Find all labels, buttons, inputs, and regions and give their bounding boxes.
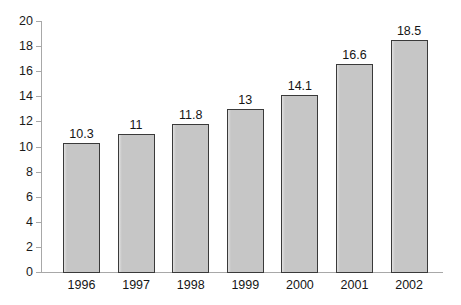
bar [281,95,318,273]
y-axis-tick [36,222,42,223]
bar-highlight [282,96,285,272]
y-axis-tick-label: 10 [3,141,33,154]
y-axis-tick [36,172,42,173]
bar [227,109,264,273]
y-axis-tick-label: 20 [3,15,33,28]
y-axis-tick [36,71,42,72]
bar [336,64,373,273]
bar-value-label: 16.6 [324,49,385,62]
y-axis-tick-label-wrap: 4 [0,216,33,228]
bar-highlight [119,135,122,272]
bar [391,40,428,273]
x-axis-category-label: 2002 [377,279,442,292]
bar-chart: 02468101214161820 10.31111.81314.116.618… [0,0,461,305]
y-axis-tick-label: 14 [3,90,33,103]
bar-highlight [228,110,231,272]
y-axis-tick-label: 8 [3,166,33,179]
y-axis-tick-label-wrap: 12 [0,115,33,127]
y-axis-tick [36,21,42,22]
y-axis-tick-label-wrap: 2 [0,241,33,253]
bar-highlight [337,65,340,272]
y-axis-tick-label-wrap: 14 [0,90,33,102]
y-axis-tick-label: 2 [3,241,33,254]
bar [118,134,155,273]
y-axis-tick [36,147,42,148]
y-axis-tick [36,272,42,273]
y-axis-tick [36,96,42,97]
y-axis-tick-label-wrap: 10 [0,141,33,153]
y-axis-tick-label-wrap: 0 [0,266,33,278]
bar-value-label: 14.1 [269,80,330,93]
y-axis-tick-label: 6 [3,191,33,204]
y-axis-tick-label-wrap: 18 [0,40,33,52]
y-axis-tick [36,197,42,198]
bar-value-label: 11 [106,119,167,132]
y-axis-tick [36,247,42,248]
bar [172,124,209,273]
y-axis-tick-label: 4 [3,216,33,229]
bar-value-label: 13 [215,94,276,107]
bar [63,143,100,273]
bar-value-label: 10.3 [51,128,112,141]
bar-highlight [64,144,67,272]
y-axis-tick-label-wrap: 20 [0,15,33,27]
bar-value-label: 11.8 [160,109,221,122]
y-axis-tick-label: 18 [3,40,33,53]
bar-highlight [173,125,176,272]
y-axis-tick-label: 12 [3,115,33,128]
y-axis-tick [36,46,42,47]
y-axis-tick-label-wrap: 8 [0,166,33,178]
bar-highlight [392,41,395,272]
y-axis-tick-label-wrap: 16 [0,65,33,77]
y-axis-tick-label-wrap: 6 [0,191,33,203]
y-axis-tick [36,121,42,122]
y-axis-tick-label: 16 [3,65,33,78]
bar-value-label: 18.5 [379,25,440,38]
y-axis-tick-label: 0 [3,266,33,279]
